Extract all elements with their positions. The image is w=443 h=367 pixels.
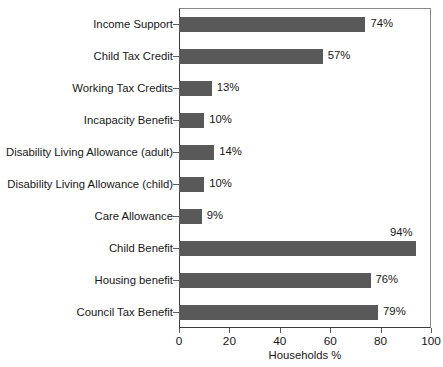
category-label: Working Tax Credits bbox=[0, 82, 173, 95]
bar[interactable] bbox=[179, 145, 214, 160]
bar-track: 13% bbox=[179, 72, 431, 104]
chart-row: Child Tax Credit 57% bbox=[0, 40, 443, 72]
x-axis-tick-label: 60 bbox=[324, 334, 337, 348]
bar-value-label: 13% bbox=[217, 81, 240, 94]
x-axis-tick bbox=[280, 328, 281, 333]
x-axis-tick-label: 80 bbox=[374, 334, 387, 348]
x-axis-tick-label: 100 bbox=[421, 334, 441, 348]
bar[interactable] bbox=[179, 17, 365, 32]
y-axis-tick bbox=[173, 24, 179, 25]
x-axis-tick bbox=[229, 328, 230, 333]
y-axis-tick bbox=[173, 216, 179, 217]
category-label: Disability Living Allowance (adult) bbox=[0, 146, 173, 159]
chart-row: Disability Living Allowance (adult) 14% bbox=[0, 136, 443, 168]
bar-track: 74% bbox=[179, 8, 431, 40]
x-axis-tick bbox=[179, 328, 180, 333]
category-label: Housing benefit bbox=[0, 274, 173, 287]
bar-value-label: 14% bbox=[219, 145, 242, 158]
bar[interactable] bbox=[179, 113, 204, 128]
chart-row: Incapacity Benefit 10% bbox=[0, 104, 443, 136]
bar-value-label: 74% bbox=[370, 17, 393, 30]
y-axis-tick bbox=[173, 312, 179, 313]
x-axis-tick bbox=[431, 328, 432, 333]
y-axis-tick bbox=[173, 56, 179, 57]
bar[interactable] bbox=[179, 241, 416, 256]
bar[interactable] bbox=[179, 49, 323, 64]
bar-value-label: 57% bbox=[328, 49, 351, 62]
x-axis-title: Households % bbox=[179, 348, 431, 362]
chart-row: Working Tax Credits 13% bbox=[0, 72, 443, 104]
y-axis-tick bbox=[173, 88, 179, 89]
x-axis-tick bbox=[381, 328, 382, 333]
bar[interactable] bbox=[179, 305, 378, 320]
x-axis-tick-label: 0 bbox=[176, 334, 183, 348]
bar-track: 10% bbox=[179, 104, 431, 136]
chart-row: Housing benefit 76% bbox=[0, 264, 443, 296]
bar-value-label: 76% bbox=[376, 273, 399, 286]
bar-value-label: 10% bbox=[209, 113, 232, 126]
bar-value-label: 9% bbox=[207, 209, 223, 222]
chart-row: Care Allowance 9% bbox=[0, 200, 443, 232]
bar-value-label: 10% bbox=[209, 177, 232, 190]
bar-value-label: 94% bbox=[390, 226, 413, 239]
bar-track: 14% bbox=[179, 136, 431, 168]
bar-chart: Income Support 74% Child Tax Credit 57% … bbox=[0, 0, 443, 367]
y-axis-tick bbox=[173, 184, 179, 185]
category-label: Incapacity Benefit bbox=[0, 114, 173, 127]
x-axis-tick-label: 20 bbox=[223, 334, 236, 348]
bar-track: 94% bbox=[179, 232, 431, 264]
category-label: Council Tax Benefit bbox=[0, 306, 173, 319]
bar[interactable] bbox=[179, 209, 202, 224]
y-axis-tick bbox=[173, 280, 179, 281]
chart-row: Child Benefit 94% bbox=[0, 232, 443, 264]
bar-track: 76% bbox=[179, 264, 431, 296]
bar-track: 57% bbox=[179, 40, 431, 72]
category-label: Disability Living Allowance (child) bbox=[0, 178, 173, 191]
chart-row: Disability Living Allowance (child) 10% bbox=[0, 168, 443, 200]
category-label: Care Allowance bbox=[0, 210, 173, 223]
y-axis-tick bbox=[173, 152, 179, 153]
chart-row: Income Support 74% bbox=[0, 8, 443, 40]
bar-value-label: 79% bbox=[383, 305, 406, 318]
x-axis-tick-label: 40 bbox=[273, 334, 286, 348]
category-label: Child Benefit bbox=[0, 242, 173, 255]
chart-rows: Income Support 74% Child Tax Credit 57% … bbox=[0, 8, 443, 328]
x-axis-tick bbox=[330, 328, 331, 333]
chart-row: Council Tax Benefit 79% bbox=[0, 296, 443, 328]
bar-track: 10% bbox=[179, 168, 431, 200]
bar[interactable] bbox=[179, 177, 204, 192]
y-axis-tick bbox=[173, 248, 179, 249]
category-label: Income Support bbox=[0, 18, 173, 31]
bar[interactable] bbox=[179, 273, 371, 288]
bar-track: 79% bbox=[179, 296, 431, 328]
category-label: Child Tax Credit bbox=[0, 50, 173, 63]
y-axis-tick bbox=[173, 120, 179, 121]
bar[interactable] bbox=[179, 81, 212, 96]
